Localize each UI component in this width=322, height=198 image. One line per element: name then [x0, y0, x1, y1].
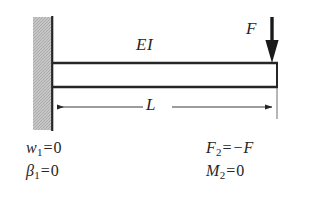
bc-m2-symbol: M [206, 162, 219, 179]
bc-beta1-value: 0 [51, 162, 59, 179]
length-label: L [146, 96, 155, 113]
force-arrow-head [265, 40, 278, 63]
bc-beta1-subscript: 1 [34, 169, 40, 181]
boundary-condition-beta1: β1=0 [26, 163, 59, 181]
bc-f2-value: −F [233, 139, 254, 156]
boundary-condition-w1: w1=0 [26, 140, 62, 158]
cantilever-beam-diagram: EI F L w1=0 β1=0 F2=−F M2=0 [0, 0, 322, 198]
beam-stiffness-label: EI [136, 36, 153, 53]
bc-w1-symbol: w [26, 139, 37, 156]
bc-w1-operator: = [42, 139, 53, 156]
bc-f2-subscript: 2 [216, 146, 222, 158]
boundary-condition-f2: F2=−F [206, 140, 253, 158]
bc-m2-operator: = [225, 162, 236, 179]
bc-f2-operator: = [222, 139, 233, 156]
applied-force-label: F [246, 20, 256, 37]
bc-f2-symbol: F [206, 139, 216, 156]
bc-beta1-symbol: β [26, 162, 34, 179]
boundary-condition-m2: M2=0 [206, 163, 244, 181]
bc-w1-value: 0 [54, 139, 62, 156]
wall-hatching [33, 17, 52, 130]
beam [52, 62, 278, 88]
length-dimension [57, 88, 277, 119]
bc-m2-value: 0 [236, 162, 244, 179]
bc-beta1-operator: = [40, 162, 51, 179]
fixed-support-wall [33, 16, 52, 131]
force-arrow [265, 17, 278, 63]
